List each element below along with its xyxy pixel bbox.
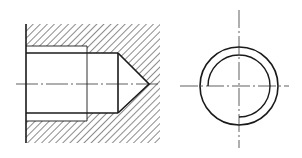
hatched-material: [26, 24, 160, 143]
technical-drawing: [0, 0, 302, 158]
thread-relief: [26, 113, 87, 121]
end-view: [180, 10, 289, 148]
section-view: [16, 24, 160, 143]
thread-relief: [26, 46, 87, 53]
